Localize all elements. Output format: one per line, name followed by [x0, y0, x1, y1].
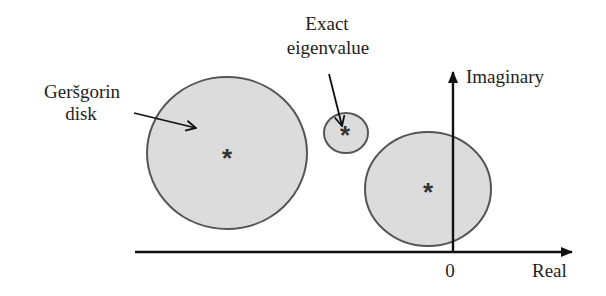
real-axis-label: Real: [532, 260, 567, 281]
gershgorin-label-line2: disk: [65, 103, 97, 124]
gershgorin-diagram: * * * Geršgorin disk Exact eigenvalue Im…: [0, 0, 606, 296]
exact-eigenvalue-label-line2: eigenvalue: [287, 37, 369, 58]
origin-label: 0: [445, 260, 455, 281]
exact-eigenvalue-label-line1: Exact: [305, 13, 349, 34]
disks-group: [147, 77, 491, 246]
gershgorin-label-line1: Geršgorin: [44, 81, 120, 102]
imaginary-axis-label: Imaginary: [466, 66, 545, 87]
eigenvalue-marker-large-disk: *: [222, 143, 233, 173]
eigenvalue-marker-right-disk: *: [423, 177, 434, 207]
